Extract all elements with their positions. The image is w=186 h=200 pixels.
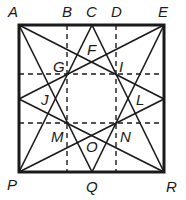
label-L: L: [136, 91, 144, 108]
label-F: F: [87, 41, 97, 58]
label-D: D: [111, 3, 122, 20]
label-B: B: [62, 3, 72, 20]
label-R: R: [166, 178, 177, 195]
label-N: N: [120, 128, 131, 145]
geometry-diagram: ABCDEFGIJLMNOPQR: [0, 0, 186, 200]
label-Q: Q: [86, 178, 98, 195]
label-M: M: [51, 128, 64, 145]
label-I: I: [119, 58, 123, 75]
label-J: J: [40, 91, 49, 108]
label-E: E: [158, 3, 169, 20]
label-O: O: [86, 138, 98, 155]
label-A: A: [7, 3, 18, 20]
label-C: C: [86, 3, 97, 20]
label-P: P: [7, 176, 17, 193]
label-G: G: [53, 58, 65, 75]
